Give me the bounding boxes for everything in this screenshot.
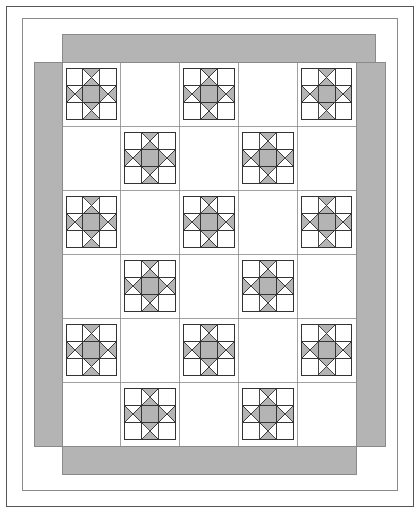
block-corner-top-right: [276, 133, 293, 150]
block-corner-top-left: [184, 69, 201, 86]
block-corner-bottom-left: [243, 294, 260, 311]
block-corner-top-left: [243, 261, 260, 278]
block-corner-top-right: [335, 69, 352, 86]
block-center-square: [83, 342, 100, 359]
block-corner-bottom-right: [335, 230, 352, 247]
block-corner-top-left: [184, 197, 201, 214]
block-corner-top-right: [100, 69, 117, 86]
block-corner-top-left: [301, 69, 318, 86]
block-corner-bottom-right: [217, 102, 234, 119]
border-strip-top: [62, 34, 375, 62]
block-corner-top-left: [66, 197, 83, 214]
block-corner-bottom-right: [276, 422, 293, 439]
block-corner-top-left: [301, 325, 318, 342]
block-corner-top-left: [66, 69, 83, 86]
block-corner-bottom-right: [100, 102, 117, 119]
block-corner-top-right: [159, 261, 176, 278]
block-corner-bottom-left: [125, 422, 142, 439]
block-corner-top-right: [217, 197, 234, 214]
block-corner-top-right: [276, 261, 293, 278]
block-corner-top-left: [243, 133, 260, 150]
block-corner-top-left: [184, 325, 201, 342]
block-center-square: [83, 86, 100, 103]
block-center-square: [201, 342, 218, 359]
border-strip-bottom: [62, 446, 356, 474]
block-corner-top-left: [243, 389, 260, 406]
block-center-square: [318, 342, 335, 359]
block-corner-bottom-left: [301, 102, 318, 119]
block-corner-bottom-left: [184, 358, 201, 375]
ohio-star-block: [66, 197, 117, 248]
block-center-square: [201, 86, 218, 103]
block-center-square: [142, 278, 159, 295]
ohio-star-block: [301, 325, 352, 376]
block-corner-top-right: [335, 197, 352, 214]
block-corner-bottom-right: [335, 102, 352, 119]
block-corner-bottom-right: [159, 294, 176, 311]
block-center-square: [142, 406, 159, 423]
block-corner-bottom-right: [335, 358, 352, 375]
block-corner-bottom-left: [66, 230, 83, 247]
block-corner-top-left: [125, 133, 142, 150]
ohio-star-block: [184, 197, 235, 248]
ohio-star-block: [243, 133, 294, 184]
ohio-star-block: [301, 69, 352, 120]
ohio-star-block: [66, 69, 117, 120]
quilt-diagram-canvas: [0, 0, 419, 512]
block-corner-bottom-left: [184, 102, 201, 119]
block-center-square: [259, 406, 276, 423]
block-corner-bottom-left: [66, 102, 83, 119]
block-corner-top-right: [100, 325, 117, 342]
block-center-square: [83, 214, 100, 231]
block-corner-bottom-left: [243, 422, 260, 439]
quilt-diagram: [0, 0, 419, 512]
block-corner-bottom-right: [217, 230, 234, 247]
block-center-square: [318, 86, 335, 103]
ohio-star-block: [66, 325, 117, 376]
block-center-square: [201, 214, 218, 231]
block-center-square: [142, 150, 159, 167]
block-center-square: [259, 150, 276, 167]
block-corner-top-right: [217, 69, 234, 86]
block-corner-bottom-left: [66, 358, 83, 375]
block-corner-top-right: [159, 389, 176, 406]
block-corner-top-right: [335, 325, 352, 342]
border-strip-left: [34, 62, 62, 446]
ohio-star-block: [184, 69, 235, 120]
block-corner-bottom-left: [184, 230, 201, 247]
block-center-square: [259, 278, 276, 295]
block-corner-top-right: [159, 133, 176, 150]
ohio-star-block: [125, 389, 176, 440]
block-corner-top-right: [276, 389, 293, 406]
border-strip-right: [356, 62, 385, 446]
block-corner-bottom-right: [100, 358, 117, 375]
block-corner-bottom-right: [100, 230, 117, 247]
block-corner-top-left: [66, 325, 83, 342]
block-corner-bottom-right: [217, 358, 234, 375]
block-corner-bottom-left: [301, 230, 318, 247]
block-corner-top-left: [301, 197, 318, 214]
block-corner-bottom-right: [159, 166, 176, 183]
block-corner-top-left: [125, 389, 142, 406]
ohio-star-block: [301, 197, 352, 248]
block-corner-top-right: [100, 197, 117, 214]
ohio-star-block: [125, 261, 176, 312]
block-corner-top-left: [125, 261, 142, 278]
block-corner-top-right: [217, 325, 234, 342]
ohio-star-block: [125, 133, 176, 184]
block-corner-bottom-right: [276, 166, 293, 183]
ohio-star-block: [243, 389, 294, 440]
ohio-star-block: [243, 261, 294, 312]
block-corner-bottom-right: [159, 422, 176, 439]
block-center-square: [318, 214, 335, 231]
block-corner-bottom-right: [276, 294, 293, 311]
ohio-star-block: [184, 325, 235, 376]
block-corner-bottom-left: [125, 166, 142, 183]
block-corner-bottom-left: [301, 358, 318, 375]
block-corner-bottom-left: [243, 166, 260, 183]
block-corner-bottom-left: [125, 294, 142, 311]
